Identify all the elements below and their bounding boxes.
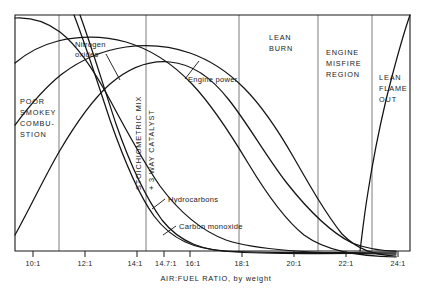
flameout-line-2: FLAME — [379, 84, 408, 93]
chart-page: Nitrogen oxides Engine power Hydrocarbon… — [0, 0, 424, 291]
region-label-engine-misfire-region: ENGINE MISFIRE REGION — [326, 48, 362, 79]
poor-line-4: STION — [20, 130, 47, 139]
label-hydrocarbons: Hydrocarbons — [168, 195, 218, 204]
lean-burn-line-1: LEAN — [269, 33, 291, 42]
label-engine-power: Engine power — [188, 75, 238, 84]
flameout-line-3: OUT — [379, 95, 397, 104]
tick-label-20: 20:1 — [286, 259, 301, 268]
x-axis-title: AIR:FUEL RATIO, by weight — [160, 274, 271, 283]
label-carbon-monoxide: Carbon monoxide — [179, 222, 243, 231]
tick-label-14-7: 14.7:1 — [155, 259, 177, 268]
poor-line-1: POOR — [20, 97, 45, 106]
poor-line-2: SMOKEY — [20, 108, 56, 117]
tick-label-22: 22:1 — [338, 259, 353, 268]
misfire-line-3: REGION — [326, 70, 360, 79]
label-nitrogen-oxides-line2: oxides — [75, 50, 98, 59]
misfire-line-2: MISFIRE — [326, 59, 362, 68]
poor-line-3: COMBU- — [20, 119, 55, 128]
label-three-way-catalyst: + 3 WAY CATALYST — [147, 109, 156, 190]
tick-label-10: 10:1 — [25, 259, 40, 268]
tick-label-14: 14:1 — [127, 259, 142, 268]
tick-label-24: 24:1 — [390, 259, 405, 268]
lean-burn-line-2: BURN — [269, 44, 293, 53]
misfire-line-1: ENGINE — [326, 48, 359, 57]
label-nitrogen-oxides-line1: Nitrogen — [75, 40, 106, 49]
flameout-line-1: LEAN — [379, 73, 401, 82]
tick-label-16: 16:1 — [185, 259, 200, 268]
tick-label-18: 18:1 — [234, 259, 249, 268]
label-stoichiometric-mix: STOICHIOMETRIC MIX — [134, 96, 143, 190]
air-fuel-ratio-chart: Nitrogen oxides Engine power Hydrocarbon… — [0, 0, 424, 291]
tick-label-12: 12:1 — [77, 259, 92, 268]
